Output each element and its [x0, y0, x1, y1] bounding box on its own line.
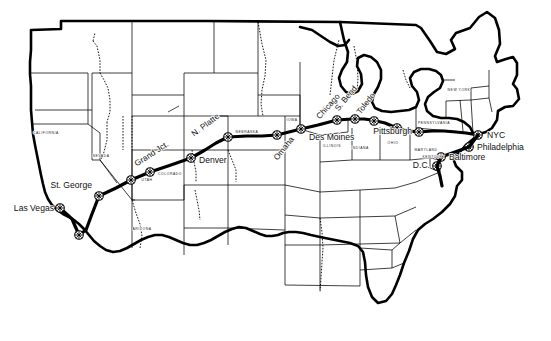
- city-label-philadelphia: Philadelphia: [477, 142, 524, 152]
- city-label-baltimore: Baltimore: [449, 152, 486, 162]
- state-label-pennsylvania: PENNSYLVANIA: [418, 121, 450, 125]
- marker-des-moines[interactable]: [297, 125, 306, 134]
- state-label-new-york: NEW YORK: [448, 88, 471, 92]
- state-label-nebraska: NEBRASKA: [236, 130, 259, 134]
- state-label-ohio: OHIO: [388, 141, 399, 145]
- map-svg: Las Vegas St. George Grand Jct. Denver N…: [0, 0, 551, 341]
- us-route-map: Las Vegas St. George Grand Jct. Denver N…: [0, 0, 551, 341]
- state-label-indiana: INDIANA: [351, 146, 369, 150]
- city-markers: [56, 115, 483, 240]
- state-label-colorado: COLORADO: [158, 172, 182, 176]
- marker-pittsburgh[interactable]: [415, 128, 424, 137]
- city-label-nyc: NYC: [487, 130, 505, 140]
- state-label-illinois: ILLINOIS: [323, 144, 342, 148]
- marker-route-point-ut[interactable]: [127, 176, 136, 185]
- route-line: [60, 119, 478, 235]
- state-label-nevada: NEVADA: [93, 154, 110, 158]
- marker-grand-jct[interactable]: [146, 168, 155, 177]
- transcontinental-route: [60, 119, 478, 235]
- state-label-arizona: ARIZONA: [133, 227, 152, 231]
- marker-omaha[interactable]: [273, 131, 282, 140]
- city-label-n-platte: N. Platte: [190, 111, 221, 138]
- marker-denver[interactable]: [187, 154, 196, 163]
- state-label-kentucky: KENTUCKY: [423, 155, 446, 159]
- marker-s-bend[interactable]: [351, 115, 360, 124]
- state-label-iowa: IOWA: [286, 118, 297, 122]
- great-lakes-outline: [300, 22, 473, 133]
- marker-route-point-sw[interactable]: [75, 231, 84, 240]
- city-label-grand-jct: Grand Jct.: [133, 140, 170, 169]
- city-label-des-moines: Des Moines: [309, 132, 354, 142]
- city-label-las-vegas: Las Vegas: [14, 203, 54, 213]
- state-label-utah: UTAH: [141, 178, 152, 182]
- city-label-st-george: St. George: [50, 180, 92, 190]
- city-labels: Las Vegas St. George Grand Jct. Denver N…: [14, 84, 524, 213]
- state-label-maryland: MARYLAND: [414, 148, 437, 152]
- city-label-dc: D.C.: [413, 160, 430, 170]
- state-label-california: CALIFORNIA: [33, 131, 59, 135]
- marker-las-vegas[interactable]: [56, 204, 65, 213]
- marker-toledo[interactable]: [370, 117, 379, 126]
- marker-n-platte[interactable]: [224, 133, 233, 142]
- city-label-denver: Denver: [199, 155, 227, 165]
- marker-chicago[interactable]: [333, 116, 342, 125]
- city-label-pittsburgh: Pittsburgh: [373, 126, 412, 136]
